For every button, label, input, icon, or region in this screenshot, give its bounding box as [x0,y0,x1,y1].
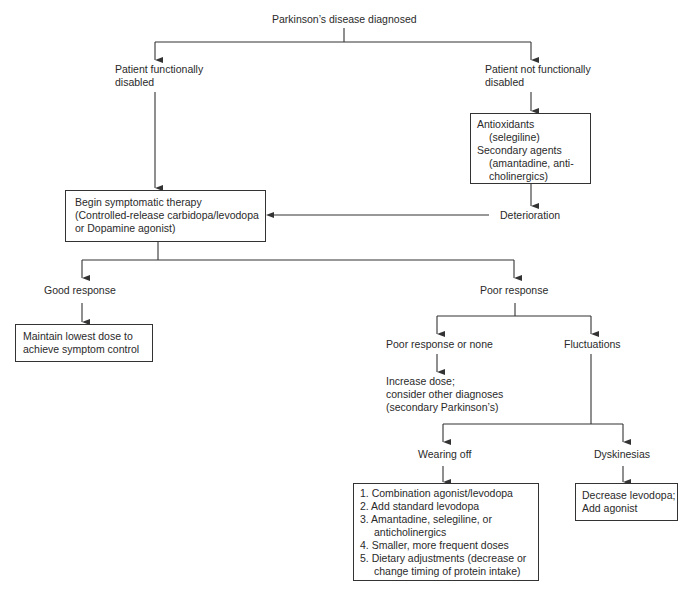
label-line: Patient functionally [115,63,203,76]
box-line: Antioxidants [477,118,584,131]
list-item: 4. Smaller, more frequent doses [360,539,532,552]
box-line: achieve symptom control [23,343,145,356]
dyskinesias-box: Decrease levodopa; Add agonist [575,483,678,521]
box-line: Secondary agents [477,144,584,157]
antioxidants-box: Antioxidants (selegiline) Secondary agen… [470,113,591,184]
node-deterioration: Deterioration [500,209,560,222]
list-item: anticholinergics [360,526,532,539]
node-functionally-disabled: Patient functionally disabled [115,63,203,89]
root-node: Parkinson’s disease diagnosed [272,13,417,26]
box-line: (Controlled-release carbidopa/levodopa [75,209,256,222]
node-fluctuations: Fluctuations [564,338,621,351]
box-line: Decrease levodopa; [582,489,671,502]
node-not-functionally-disabled: Patient not functionally disabled [485,63,591,89]
box-line: Add agonist [582,502,671,515]
label-line: disabled [485,76,591,89]
list-item: change timing of protein intake) [360,565,532,578]
node-dyskinesias: Dyskinesias [594,448,650,461]
list-item: 1. Combination agonist/levodopa [360,487,532,500]
list-item: 5. Dietary adjustments (decrease or [360,552,532,565]
text-line: Increase dose; [386,375,503,388]
node-good-response: Good response [44,284,116,297]
node-poor-response-or-none: Poor response or none [386,338,493,351]
label-line: disabled [115,76,203,89]
box-line: cholinergics) [477,170,584,183]
box-line: (amantadine, anti- [477,157,584,170]
wearing-off-box: 1. Combination agonist/levodopa 2. Add s… [353,483,539,581]
box-line: Maintain lowest dose to [23,330,145,343]
box-line: or Dopamine agonist) [75,222,256,235]
box-line: (selegiline) [477,131,584,144]
symptomatic-therapy-box: Begin symptomatic therapy (Controlled-re… [65,190,266,242]
box-line: Begin symptomatic therapy [75,196,256,209]
text-line: (secondary Parkinson’s) [386,401,503,414]
node-increase-dose: Increase dose; consider other diagnoses … [386,375,503,414]
list-item: 2. Add standard levodopa [360,500,532,513]
text-line: consider other diagnoses [386,388,503,401]
list-item: 3. Amantadine, selegiline, or [360,513,532,526]
maintain-dose-box: Maintain lowest dose to achieve symptom … [15,324,153,362]
label-line: Patient not functionally [485,63,591,76]
node-wearing-off: Wearing off [418,448,471,461]
node-poor-response: Poor response [480,284,548,297]
